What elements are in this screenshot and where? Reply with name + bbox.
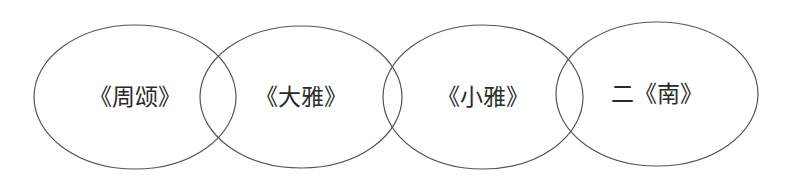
label-zhou-song: 《周颂》 [89,84,181,110]
poetry-sections-diagram: 《周颂》 《大雅》 《小雅》 二《南》 [0,0,793,179]
label-xiao-ya: 《小雅》 [437,84,529,110]
ellipse-da-ya: 《大雅》 [200,26,402,168]
ellipse-xiao-ya: 《小雅》 [383,25,583,169]
label-da-ya: 《大雅》 [255,84,347,110]
ellipse-zhou-song: 《周颂》 [34,25,236,169]
ellipse-er-nan: 二《南》 [556,22,758,166]
label-er-nan: 二《南》 [611,81,703,107]
